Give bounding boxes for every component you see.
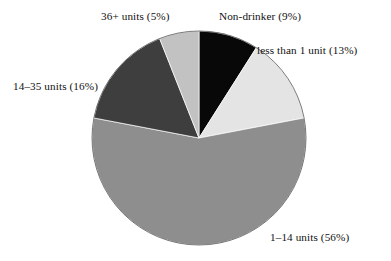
pie-chart-figure: Non-drinker (9%) less than 1 unit (13%) … bbox=[0, 0, 391, 261]
slice-label-36-plus-units: 36+ units (5%) bbox=[101, 10, 170, 23]
pie-chart-canvas bbox=[0, 0, 391, 261]
pie-slice-group bbox=[92, 31, 306, 245]
slice-label-14-35-units: 14–35 units (16%) bbox=[13, 80, 98, 93]
slice-label-1-14-units: 1–14 units (56%) bbox=[270, 231, 349, 244]
slice-label-less-than-1-unit: less than 1 unit (13%) bbox=[257, 44, 357, 57]
slice-label-non-drinker: Non-drinker (9%) bbox=[219, 10, 301, 23]
